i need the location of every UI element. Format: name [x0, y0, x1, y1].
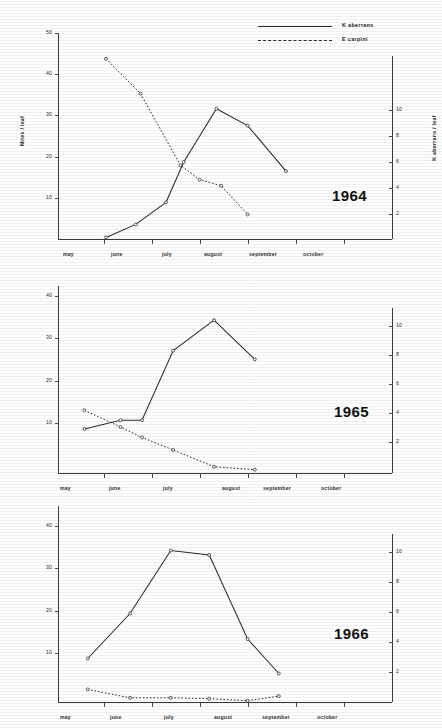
chart-panel-1966: 1966 40 30 20 10 10 8 6 4 2	[0, 494, 442, 728]
data-series-group-1964	[0, 0, 442, 266]
series-line-k-aberrans	[106, 109, 286, 238]
data-point-marker	[246, 213, 249, 216]
data-point-marker	[83, 409, 86, 412]
data-point-marker	[213, 465, 216, 468]
data-point-marker	[86, 657, 89, 660]
data-point-marker	[215, 107, 218, 110]
plot-area-1966: 40 30 20 10 10 8 6 4 2 may june j	[0, 494, 442, 728]
data-point-marker	[105, 57, 108, 60]
data-point-marker	[83, 427, 86, 430]
data-point-marker	[208, 554, 211, 557]
data-point-marker	[253, 358, 256, 361]
data-point-marker	[182, 161, 185, 164]
data-point-marker	[277, 672, 280, 675]
series-line-k-aberrans	[88, 551, 279, 674]
data-series-group-1965	[0, 266, 442, 494]
data-point-marker	[169, 696, 172, 699]
data-point-marker	[134, 223, 137, 226]
data-point-marker	[169, 549, 172, 552]
data-point-marker	[246, 699, 249, 702]
chart-panel-1965: 1965 40 30 20 10 10 8 6 4 2	[0, 266, 442, 494]
series-line-e-carpini	[84, 410, 254, 469]
data-point-marker	[141, 419, 144, 422]
data-point-marker	[172, 448, 175, 451]
data-point-marker	[119, 425, 122, 428]
data-point-marker	[139, 92, 142, 95]
data-point-marker	[179, 164, 182, 167]
data-point-marker	[213, 319, 216, 322]
series-line-k-aberrans	[84, 320, 254, 429]
data-point-marker	[198, 178, 201, 181]
data-point-marker	[172, 349, 175, 352]
data-point-marker	[253, 468, 256, 471]
data-point-marker	[246, 638, 249, 641]
data-point-marker	[277, 695, 280, 698]
data-point-marker	[220, 184, 223, 187]
plot-area-1964: 50 40 30 20 10 10 8 6 4 2 may	[0, 0, 442, 266]
chart-panel-1964: K aberrans E carpini 1964 Mites / leaf K…	[0, 0, 442, 266]
data-point-marker	[105, 236, 108, 239]
data-point-marker	[86, 688, 89, 691]
data-point-marker	[129, 612, 132, 615]
plot-area-1965: 40 30 20 10 10 8 6 4 2 may june j	[0, 266, 442, 494]
data-point-marker	[165, 201, 168, 204]
data-point-marker	[129, 696, 132, 699]
data-point-marker	[141, 436, 144, 439]
data-series-group-1966	[0, 494, 442, 728]
series-line-e-carpini	[88, 689, 279, 700]
series-line-e-carpini	[106, 59, 248, 215]
figure-three-year-mite-population: K aberrans E carpini 1964 Mites / leaf K…	[0, 0, 442, 728]
data-point-marker	[285, 170, 288, 173]
data-point-marker	[119, 419, 122, 422]
data-point-marker	[208, 697, 211, 700]
data-point-marker	[246, 124, 249, 127]
